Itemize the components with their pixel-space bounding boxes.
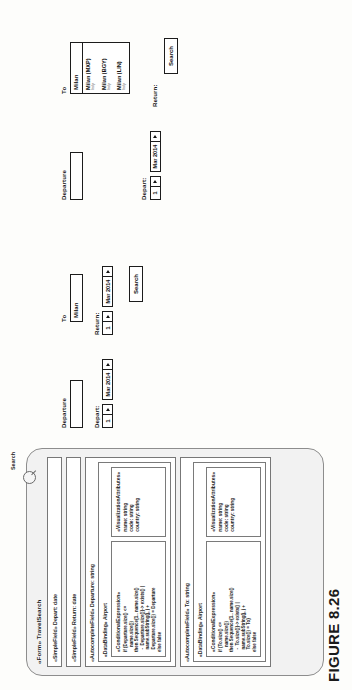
list-item[interactable]: Milan (LIN) Italy [114,43,130,93]
return-day-value: 1 [103,322,112,334]
autocomplete-field-departure-title: «AutocompleteField» Departure: string [89,462,95,662]
depart-month-spinner[interactable]: Mar 2014 [102,359,113,400]
conditional-expression-departure: «ConditionalExpression» if (Departure.si… [111,541,166,657]
return-date-group-after: Return: [151,84,161,107]
conditional-expression-departure-code: if (Departure.size() <= name.size()) the… [123,546,162,652]
conditional-expression-departure-title: «ConditionalExpression» [115,546,121,652]
to-field-group-before: To Milan [60,274,83,322]
search-button-before[interactable]: Search [129,266,143,302]
data-binding-airport-departure: «DataBinding» Airport «ConditionalExpres… [98,462,171,662]
suggestion-country: Italy [91,46,96,90]
depart-label: Depart: [140,131,147,200]
mockup-travel-search-before: Departure To Milan Depart: 1 Mar 2014 [60,258,143,428]
list-item[interactable]: Milan (MXP) Italy [83,43,99,93]
data-binding-airport-to: «DataBinding» Airport «ConditionalExpres… [193,462,266,662]
search-button-after[interactable]: Search [164,38,178,74]
departure-input[interactable] [70,380,83,428]
to-input[interactable]: Milan [70,274,83,322]
simple-field-depart: «SimpleField» Depart: date [47,457,62,667]
depart-day-value: 1 [151,187,160,199]
return-date-group-before: Return: 1 Mar 2014 [93,266,114,335]
depart-label: Depart: [93,359,100,428]
depart-date-group-after: Depart: 1 Mar 2014 [140,131,161,200]
return-month-spinner[interactable]: Mar 2014 [102,266,113,307]
departure-field-group-before: Departure [60,380,83,428]
visualization-attributes-to-title: «VisualizationAttributes» [210,472,216,532]
to-label: To [60,42,67,94]
visualization-attributes-departure-title: «VisualizationAttributes» [115,472,121,532]
simple-field-return-label: «SimpleField» Return: date [71,594,77,662]
uml-form-package: «Form» TravelSearch «SimpleField» Depart… [26,448,324,676]
autocomplete-field-to: «AutocompleteField» To: string «DataBind… [180,457,271,667]
attribute-country: country: string [230,472,236,532]
mockup-travel-search-after: Departure To Milan Milan (MXP) Italy Mil… [60,20,178,200]
autocomplete-suggestions-popup[interactable]: Milan (MXP) Italy Milan (BGY) Italy Mila… [83,42,131,94]
package-title: «Form» TravelSearch [35,457,42,664]
return-label: Return: [151,84,158,107]
departure-field-group-after: Departure [60,152,130,200]
list-item[interactable]: Milan (BGY) Italy [98,43,114,93]
departure-label: Departure [60,380,67,428]
departure-label: Departure [60,152,67,200]
autocomplete-field-to-title: «AutocompleteField» To: string [184,462,190,662]
conditional-expression-to-code: if (To.size() <= name.size()) then Seque… [218,546,257,652]
depart-day-spinner[interactable]: 1 [150,176,161,200]
return-day-spinner[interactable]: 1 [102,311,113,335]
visualization-attributes-to: «VisualizationAttributes» name: string c… [206,467,261,537]
conditional-expression-to: «ConditionalExpression» if (To.size() <=… [206,541,261,657]
suggestion-country: Italy [122,46,127,90]
return-label: Return: [93,266,100,335]
depart-date-group-before: Depart: 1 Mar 2014 [93,359,114,428]
figure-page: FIGURE 8.26 «Form» TravelSearch «SimpleF… [0,0,352,690]
depart-month-chevron-icon[interactable] [151,132,160,142]
depart-day-spinner[interactable]: 1 [102,404,113,428]
departure-input[interactable] [70,152,83,200]
depart-month-value: Mar 2014 [151,142,160,171]
depart-month-chevron-icon[interactable] [103,360,112,370]
to-field-group-after: To Milan Milan (MXP) Italy Milan (BGY) I… [60,42,130,94]
depart-month-value: Mar 2014 [103,370,112,399]
conditional-expression-to-title: «ConditionalExpression» [210,546,216,652]
data-binding-departure-title: «DataBinding» Airport [102,467,108,657]
simple-field-return: «SimpleField» Return: date [66,457,81,667]
attribute-country: country: string [135,472,141,532]
to-label: To [60,274,67,322]
return-month-chevron-icon[interactable] [103,267,112,277]
depart-day-chevron-icon[interactable] [151,177,160,187]
depart-day-chevron-icon[interactable] [103,405,112,415]
autocomplete-field-departure: «AutocompleteField» Departure: string «D… [85,457,176,667]
to-input[interactable]: Milan [70,42,83,94]
simple-field-depart-label: «SimpleField» Depart: date [52,594,58,662]
return-month-value: Mar 2014 [103,277,112,306]
depart-day-value: 1 [103,415,112,427]
data-binding-to-title: «DataBinding» Airport [197,467,203,657]
return-day-chevron-icon[interactable] [103,312,112,322]
depart-month-spinner[interactable]: Mar 2014 [150,131,161,172]
suggestion-country: Italy [107,46,112,90]
figure-caption: FIGURE 8.26 [325,589,342,682]
visualization-attributes-departure: «VisualizationAttributes» name: string c… [111,467,166,537]
search-annotation-label: Search [10,452,16,470]
